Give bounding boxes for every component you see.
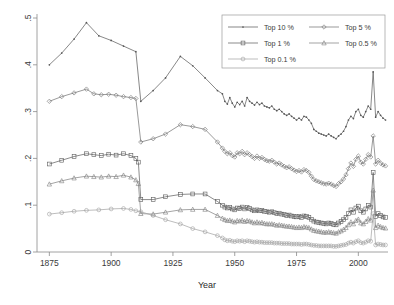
data-point [229,97,231,99]
data-point [325,135,327,137]
legend-label-2[interactable]: Top 1 % [264,39,291,48]
data-point [269,107,271,109]
data-point [357,108,359,110]
data-point [264,105,266,107]
data-point [323,134,325,136]
data-point [242,26,244,28]
data-point [333,136,335,138]
data-point [61,52,63,54]
data-point [261,102,263,104]
data-point [271,105,273,107]
data-point [343,130,345,132]
data-point [152,90,154,92]
data-point [298,117,300,119]
x-axis-title: Year [198,280,216,290]
data-point [236,101,238,103]
x-tick-label: 1900 [102,258,121,268]
data-point [73,38,75,40]
data-point [98,35,100,37]
data-point [348,119,350,121]
chart-legend[interactable]: Top 10 %Top 1 %Top 0.1 %Top 5 %Top 0.5 % [222,15,385,68]
data-point [86,22,88,24]
data-point [335,138,337,140]
income-share-chart: 0.1.2.3.4.5187519001925195019752000 Top … [0,0,394,305]
x-tick-label: 1950 [225,258,244,268]
y-tick-label: .2 [23,155,33,162]
data-point [204,77,206,79]
data-point [320,133,322,135]
data-point [296,119,298,121]
data-point [308,119,310,121]
data-point [256,101,258,103]
data-point [47,99,51,103]
data-point [286,114,288,116]
data-point [315,130,317,132]
data-point [303,115,305,117]
data-point [49,64,51,66]
data-point [217,90,219,92]
series-3 [47,173,388,235]
legend-label-1[interactable]: Top 5 % [345,23,372,32]
y-tick-label: .5 [23,14,33,21]
data-point [372,71,374,73]
y-tick-label: .3 [23,108,33,115]
data-point [360,114,362,116]
data-point [375,116,377,118]
y-tick-label: .4 [23,61,33,68]
data-point [362,116,364,118]
legend-label-4[interactable]: Top 0.1 % [264,55,297,64]
data-point [135,51,137,53]
data-point [123,45,125,47]
legend-label-0[interactable]: Top 10 % [264,23,295,32]
data-point [338,135,340,137]
y-tick-label: 0 [23,249,33,254]
data-point [382,117,384,119]
data-point [165,77,167,79]
data-point [110,40,112,42]
data-point [350,115,352,117]
data-point [385,119,387,121]
data-point [244,105,246,107]
data-point [224,100,226,102]
data-point [278,108,280,110]
data-point [234,106,236,108]
data-point [353,118,355,120]
data-point [377,111,379,113]
data-point [328,133,330,135]
data-point [283,113,285,115]
data-point [318,132,320,134]
x-tick-label: 2000 [349,258,368,268]
data-point [340,133,342,135]
data-point [365,111,367,113]
data-point [313,129,315,131]
data-point [249,100,251,102]
data-point [222,93,224,95]
data-point [180,56,182,58]
data-point [254,104,256,106]
data-point [293,117,295,119]
x-tick-label: 1925 [163,258,182,268]
data-point [140,100,142,102]
data-point [276,110,278,112]
data-point [192,65,194,67]
data-point [288,113,290,115]
data-point [259,104,261,106]
data-point [330,135,332,137]
chart-canvas: 0.1.2.3.4.5187519001925195019752000 Top … [0,0,394,305]
data-point [241,100,243,102]
data-point [311,122,313,124]
data-point [281,111,283,113]
data-point [231,102,233,104]
x-tick-label: 1875 [40,258,59,268]
data-point [367,105,369,107]
data-point [273,108,275,110]
series-line [49,208,385,246]
data-point [246,97,248,99]
data-point [355,111,357,113]
data-point [380,114,382,116]
y-tick-label: .1 [23,201,33,208]
data-point [266,106,268,108]
data-point [370,108,372,110]
legend-label-3[interactable]: Top 0.5 % [345,39,378,48]
data-point [251,102,253,104]
